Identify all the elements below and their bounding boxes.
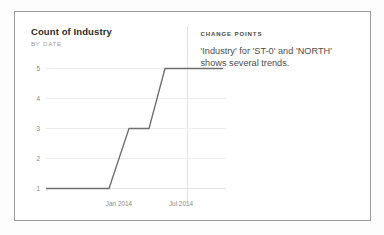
chart-subtitle: BY DATE [31,39,187,49]
x-axis-ticks: Jan 2014 Jul 2014 [106,200,194,207]
y-tick-label: 4 [36,95,40,102]
y-axis-ticks: 5 4 3 2 1 [36,65,40,192]
y-tick-label: 3 [36,125,40,132]
insight-kicker: CHANGE POINTS [201,29,358,38]
chart-panel: Count of Industry BY DATE 5 4 [15,12,187,220]
y-tick-label: 5 [36,65,40,72]
plot-area: 5 4 3 2 1 Jan 2014 Jul 2014 [15,56,251,218]
y-tick-label: 1 [36,185,40,192]
chart-title: Count of Industry [31,26,187,38]
x-tick-label: Jan 2014 [106,200,133,207]
y-tick-label: 2 [36,155,40,162]
insight-card: Count of Industry BY DATE 5 4 [14,11,371,221]
page-background: Count of Industry BY DATE 5 4 [0,0,384,235]
x-tick-label: Jul 2014 [169,200,194,207]
line-chart-svg: 5 4 3 2 1 Jan 2014 Jul 2014 [15,56,251,218]
